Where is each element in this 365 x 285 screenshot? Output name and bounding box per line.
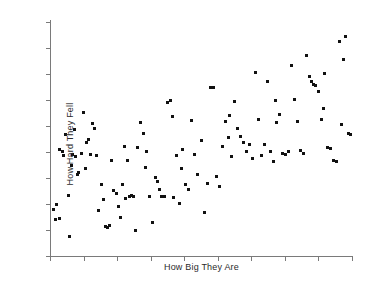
- x-tick: [84, 257, 85, 261]
- data-point: [115, 192, 118, 195]
- data-point: [224, 120, 227, 123]
- data-point: [93, 127, 96, 130]
- data-point: [97, 209, 100, 212]
- data-point: [87, 138, 90, 141]
- data-point: [251, 157, 254, 160]
- x-tick: [251, 257, 252, 261]
- data-point: [58, 217, 61, 220]
- data-point: [263, 143, 266, 146]
- data-point: [245, 150, 248, 153]
- data-point: [181, 148, 184, 151]
- data-point: [254, 71, 257, 74]
- data-point: [82, 111, 85, 114]
- data-point: [233, 100, 236, 103]
- data-point: [206, 182, 209, 185]
- data-point: [85, 141, 88, 144]
- data-point: [203, 211, 206, 214]
- x-tick: [151, 257, 152, 261]
- data-point: [121, 183, 124, 186]
- data-point: [248, 143, 251, 146]
- data-point: [119, 216, 122, 219]
- data-point: [317, 90, 320, 93]
- data-point: [320, 118, 323, 121]
- y-axis-label: How Hard They Fell: [65, 27, 75, 261]
- data-point: [148, 195, 151, 198]
- data-point: [314, 84, 317, 87]
- data-point: [329, 147, 332, 150]
- data-point: [278, 113, 281, 116]
- data-point: [80, 152, 83, 155]
- data-point: [200, 139, 203, 142]
- data-point: [242, 141, 245, 144]
- data-point: [335, 160, 338, 163]
- data-point: [117, 205, 120, 208]
- data-point: [338, 40, 341, 43]
- data-point: [102, 198, 105, 201]
- data-point: [342, 58, 345, 61]
- data-point: [296, 120, 299, 123]
- data-point: [302, 152, 305, 155]
- data-point: [340, 123, 343, 126]
- x-axis-spine: [50, 256, 353, 257]
- data-point: [156, 180, 159, 183]
- data-point: [169, 99, 172, 102]
- data-point: [172, 196, 175, 199]
- data-point: [108, 224, 111, 227]
- data-point: [178, 202, 181, 205]
- data-point: [274, 99, 277, 102]
- data-point: [95, 154, 98, 157]
- data-point: [134, 229, 137, 232]
- data-point: [260, 154, 263, 157]
- scatter-plot-figure: How Big They Are How Hard They Fell: [0, 0, 365, 285]
- data-point: [287, 150, 290, 153]
- data-point: [290, 64, 293, 67]
- data-point: [257, 118, 260, 121]
- data-point: [175, 154, 178, 157]
- data-point: [272, 160, 275, 163]
- data-point: [266, 80, 269, 83]
- plot-data-area: [50, 22, 352, 256]
- data-point: [230, 155, 233, 158]
- data-point: [236, 127, 239, 130]
- data-point: [190, 119, 193, 122]
- data-point: [308, 75, 311, 78]
- data-point: [151, 221, 154, 224]
- data-point: [84, 167, 87, 170]
- data-point: [158, 188, 161, 191]
- data-point: [171, 115, 174, 118]
- data-point: [124, 197, 127, 200]
- x-axis-label: How Big They Are: [50, 262, 353, 272]
- data-point: [180, 167, 183, 170]
- data-point: [227, 136, 230, 139]
- data-point: [77, 171, 80, 174]
- data-point: [91, 122, 94, 125]
- data-point: [239, 135, 242, 138]
- data-point: [187, 188, 190, 191]
- data-point: [163, 195, 166, 198]
- data-point: [228, 114, 231, 117]
- data-point: [349, 133, 352, 136]
- x-tick: [285, 257, 286, 261]
- data-point: [100, 183, 103, 186]
- x-tick: [50, 257, 51, 261]
- x-tick: [218, 257, 219, 261]
- data-point: [132, 195, 135, 198]
- data-point: [110, 159, 113, 162]
- data-point: [275, 121, 278, 124]
- data-point: [184, 183, 187, 186]
- x-tick: [318, 257, 319, 261]
- data-point: [305, 54, 308, 57]
- data-point: [322, 107, 325, 110]
- data-point: [55, 203, 58, 206]
- data-point: [123, 145, 126, 148]
- data-point: [54, 218, 57, 221]
- data-point: [293, 98, 296, 101]
- data-point: [142, 132, 145, 135]
- data-point: [215, 175, 218, 178]
- data-point: [52, 208, 55, 211]
- x-tick: [117, 257, 118, 261]
- data-point: [89, 153, 92, 156]
- data-point: [212, 86, 215, 89]
- y-tick: [46, 256, 50, 257]
- data-point: [145, 150, 148, 153]
